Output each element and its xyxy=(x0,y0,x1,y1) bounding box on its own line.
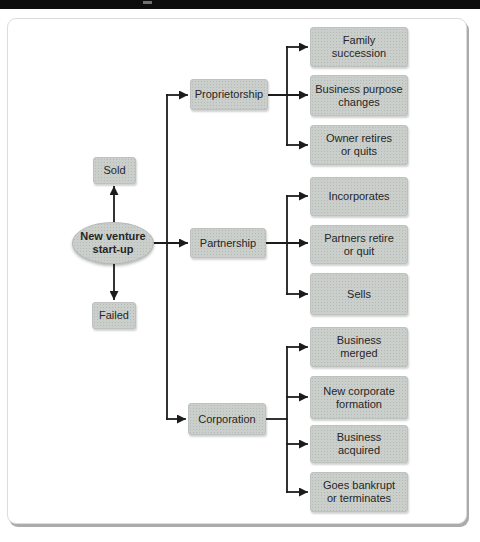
node-corporation: Corporation xyxy=(188,403,266,435)
header-bar-artifact xyxy=(143,1,152,4)
node-incorporates-label: Incorporates xyxy=(328,190,389,203)
node-business-merged: Business merged xyxy=(310,327,408,367)
node-incorporates: Incorporates xyxy=(310,177,408,216)
node-family-succession-label: Family succession xyxy=(332,34,386,60)
node-owner-retires-or-quits: Owner retires or quits xyxy=(310,125,408,165)
node-goes-bankrupt-label: Goes bankrupt or terminates xyxy=(323,479,395,505)
node-failed-label: Failed xyxy=(99,309,129,322)
node-new-venture-label: New venture start-up xyxy=(80,230,145,256)
node-sells: Sells xyxy=(310,273,408,315)
node-new-corporate-formation-label: New corporate formation xyxy=(323,385,395,411)
node-business-acquired: Business acquired xyxy=(310,425,408,463)
node-owner-retires-label: Owner retires or quits xyxy=(326,132,392,158)
node-failed: Failed xyxy=(92,302,136,329)
node-sold-label: Sold xyxy=(103,164,125,177)
figure-page: Sold New venture start-up Failed Proprie… xyxy=(0,0,480,542)
node-partnership: Partnership xyxy=(190,228,266,258)
node-business-purpose-changes: Business purpose changes xyxy=(310,75,408,116)
node-proprietorship-label: Proprietorship xyxy=(195,88,263,101)
node-proprietorship: Proprietorship xyxy=(190,79,268,110)
node-business-merged-label: Business merged xyxy=(337,334,382,360)
node-sold: Sold xyxy=(93,157,136,184)
node-new-corporate-formation: New corporate formation xyxy=(310,376,408,419)
node-business-purpose-changes-label: Business purpose changes xyxy=(315,83,402,109)
header-bar xyxy=(0,0,480,9)
node-partners-retire-label: Partners retire or quit xyxy=(324,232,394,258)
node-partnership-label: Partnership xyxy=(200,237,256,250)
node-corporation-label: Corporation xyxy=(198,413,255,426)
node-goes-bankrupt-or-terminates: Goes bankrupt or terminates xyxy=(310,472,408,512)
node-new-venture-start-up: New venture start-up xyxy=(72,222,154,264)
node-partners-retire-or-quit: Partners retire or quit xyxy=(310,225,408,264)
node-sells-label: Sells xyxy=(347,288,371,301)
node-family-succession: Family succession xyxy=(310,27,408,67)
node-business-acquired-label: Business acquired xyxy=(337,431,382,457)
